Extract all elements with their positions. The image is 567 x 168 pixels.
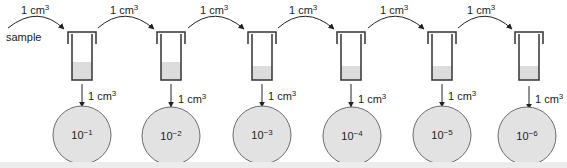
transfer-label-2: 1 cm3 <box>110 3 139 16</box>
transfer-label-3: 1 cm3 <box>200 3 229 16</box>
plating-label-4: 1 cm3 <box>358 92 387 105</box>
transfer-label-1: 1 cm3 <box>21 3 50 16</box>
arrow-tube-4-to-5 <box>368 16 424 29</box>
agar-plates <box>53 106 556 165</box>
transfer-label-4: 1 cm3 <box>289 3 318 16</box>
tube-2 <box>157 32 185 80</box>
arrow-tube-2-to-3 <box>188 16 244 29</box>
tubes <box>68 32 543 80</box>
plating-label-1: 1 cm3 <box>88 89 117 102</box>
tube-5 <box>428 32 456 80</box>
plating-label-5: 1 cm3 <box>448 89 477 102</box>
transfer-arrows <box>8 16 512 29</box>
plating-label-3: 1 cm3 <box>268 89 297 102</box>
serial-dilution-diagram: sample 1 cm3 1 cm3 1 cm3 1 cm3 1 cm3 1 c… <box>0 0 567 168</box>
transfer-labels: 1 cm3 1 cm3 1 cm3 1 cm3 1 cm3 1 cm3 <box>21 3 496 16</box>
plating-labels: 1 cm3 1 cm3 1 cm3 1 cm3 1 cm3 1 cm3 <box>88 89 564 105</box>
arrow-tube-3-to-4 <box>278 16 334 29</box>
tube-4 <box>337 32 365 80</box>
arrow-sample-to-tube-1 <box>8 16 64 29</box>
arrow-tube-1-to-2 <box>98 16 154 29</box>
tube-6 <box>515 32 543 80</box>
arrow-tube-5-to-6 <box>458 16 512 29</box>
tube-3 <box>248 32 276 80</box>
transfer-label-6: 1 cm3 <box>467 3 496 16</box>
plating-label-2: 1 cm3 <box>178 92 207 105</box>
plating-label-6: 1 cm3 <box>535 92 564 105</box>
transfer-label-5: 1 cm3 <box>380 3 409 16</box>
bottom-strip <box>0 162 567 168</box>
sample-label: sample <box>6 31 41 43</box>
tube-1 <box>68 32 96 80</box>
